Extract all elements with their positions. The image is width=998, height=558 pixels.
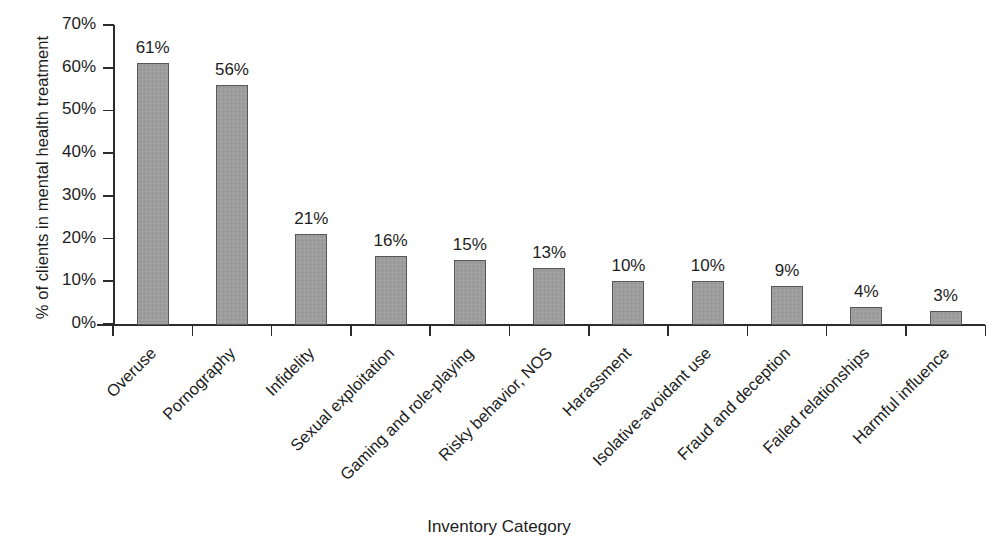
bar <box>137 63 169 325</box>
bar-value-label: 13% <box>509 243 589 263</box>
y-axis-tick-label-text: 0% <box>26 313 96 333</box>
y-axis-tick-label: 60% <box>22 57 96 77</box>
y-axis-tick-label: 30% <box>22 185 96 205</box>
y-axis-tick <box>103 280 114 282</box>
y-axis-tick-label: 0% <box>22 313 96 333</box>
bar-value-label: 10% <box>588 256 668 276</box>
bar-fill-texture <box>534 269 564 324</box>
y-axis-tick-label-text: 30% <box>26 185 96 205</box>
bar-value-label: 4% <box>826 282 906 302</box>
bar-fill-texture <box>613 282 643 324</box>
y-axis-tick <box>103 67 114 69</box>
y-axis-tick <box>103 110 114 112</box>
x-axis-tick <box>192 325 194 336</box>
y-axis-tick-label-text: 60% <box>26 57 96 77</box>
y-axis-tick-label: 10% <box>22 270 96 290</box>
y-axis-tick-label: 40% <box>22 142 96 162</box>
x-axis-tick <box>826 325 828 336</box>
bar-fill-texture <box>138 64 168 324</box>
bar <box>850 307 882 325</box>
y-axis-tick-label: 70% <box>22 14 96 34</box>
bar <box>454 260 486 325</box>
bar <box>930 311 962 325</box>
bar-fill-texture <box>217 86 247 324</box>
y-axis-tick-label: 20% <box>22 228 96 248</box>
x-axis-tick <box>350 325 352 336</box>
bar-value-label: 10% <box>668 256 748 276</box>
bar-value-label: 3% <box>906 286 986 306</box>
x-axis-tick <box>112 325 114 336</box>
bar <box>692 281 724 325</box>
y-axis-tick-label: 50% <box>22 99 96 119</box>
bar <box>533 268 565 325</box>
bar-chart: % of clients in mental health treatment … <box>0 0 998 558</box>
bar-value-label: 16% <box>351 231 431 251</box>
x-axis-tick <box>747 325 749 336</box>
bar-fill-texture <box>455 261 485 324</box>
bar-fill-texture <box>376 257 406 324</box>
y-axis-tick-label-text: 50% <box>26 99 96 119</box>
bar-value-label: 21% <box>271 209 351 229</box>
y-axis-tick-label-text: 40% <box>26 142 96 162</box>
bar <box>771 286 803 325</box>
bar <box>375 256 407 325</box>
bar <box>612 281 644 325</box>
x-axis-title: Inventory Category <box>0 517 998 537</box>
x-axis-tick <box>271 325 273 336</box>
y-axis-tick <box>103 195 114 197</box>
x-axis-tick <box>429 325 431 336</box>
bar-value-label: 61% <box>113 38 193 58</box>
y-axis-tick-label-text: 20% <box>26 228 96 248</box>
bar-fill-texture <box>851 308 881 324</box>
x-axis-tick <box>509 325 511 336</box>
x-axis-tick <box>905 325 907 336</box>
y-axis-tick <box>103 238 114 240</box>
bar <box>216 85 248 325</box>
bar <box>295 234 327 325</box>
bar-fill-texture <box>772 287 802 324</box>
x-axis-tick <box>667 325 669 336</box>
y-axis-tick <box>103 24 114 26</box>
bar-fill-texture <box>693 282 723 324</box>
bar-fill-texture <box>296 235 326 324</box>
x-axis-tick <box>985 325 987 336</box>
bar-value-label: 56% <box>192 60 272 80</box>
bar-value-label: 9% <box>747 261 827 281</box>
bar-value-label: 15% <box>430 235 510 255</box>
bar-fill-texture <box>931 312 961 324</box>
y-axis-tick-label-text: 70% <box>26 14 96 34</box>
x-axis-tick <box>588 325 590 336</box>
y-axis-tick <box>103 152 114 154</box>
y-axis-tick-label-text: 10% <box>26 270 96 290</box>
